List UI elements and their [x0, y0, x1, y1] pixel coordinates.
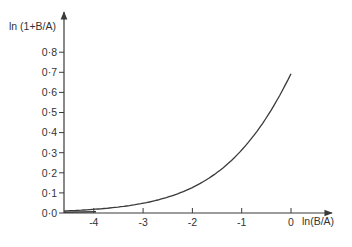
- y-ticks: 0·00·10·20·30·40·50·60·70·8: [42, 46, 64, 219]
- chart: ln (1+B/A) ln(B/A) 0·00·10·20·30·40·50·6…: [0, 0, 352, 247]
- x-tick-label: -1: [237, 216, 246, 228]
- x-axis-title: ln(B/A): [302, 215, 334, 227]
- x-tick-label: -2: [188, 216, 197, 228]
- y-tick-label: 0·7: [42, 66, 57, 78]
- y-tick-label: 0·1: [42, 187, 57, 199]
- y-tick-label: 0·0: [42, 207, 57, 219]
- y-tick-label: 0·8: [42, 46, 57, 58]
- curve-baseline-overlap: [64, 212, 96, 213]
- x-tick-label: -3: [138, 216, 147, 228]
- y-axis-title: ln (1+B/A): [9, 20, 56, 32]
- data-curve: [64, 74, 291, 211]
- y-tick-label: 0·3: [42, 147, 57, 159]
- y-tick-label: 0·2: [42, 167, 57, 179]
- x-ticks: -4-3-2-10: [89, 208, 294, 228]
- y-tick-label: 0·4: [42, 126, 57, 138]
- y-tick-label: 0·5: [42, 106, 57, 118]
- x-tick-label: 0: [288, 216, 294, 228]
- x-tick-label: -4: [89, 216, 98, 228]
- y-tick-label: 0·6: [42, 86, 57, 98]
